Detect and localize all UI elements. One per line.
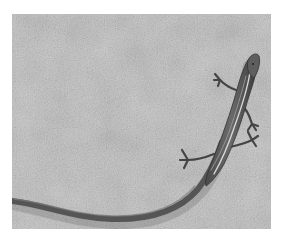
lizard-eye [252, 63, 254, 65]
photo-canvas [12, 14, 271, 229]
photo: Grayscale photograph of a slender lizard… [12, 14, 271, 229]
